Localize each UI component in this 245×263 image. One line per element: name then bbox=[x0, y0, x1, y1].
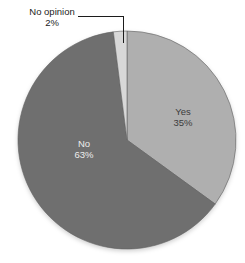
slice-label-no-pct: 63% bbox=[54, 149, 114, 160]
slice-label-no: No 63% bbox=[54, 138, 114, 160]
callout-leader-line-vertical bbox=[123, 16, 124, 43]
slice-label-yes-pct: 35% bbox=[153, 117, 213, 128]
slice-label-yes: Yes 35% bbox=[153, 106, 213, 128]
slice-label-yes-text: Yes bbox=[153, 106, 213, 117]
pie-chart-figure: No opinion 2% Yes 35% No 63% bbox=[0, 0, 245, 263]
callout-label-pct: 2% bbox=[10, 17, 94, 28]
slice-label-no-text: No bbox=[54, 138, 114, 149]
callout-leader-line-horizontal bbox=[78, 16, 124, 17]
